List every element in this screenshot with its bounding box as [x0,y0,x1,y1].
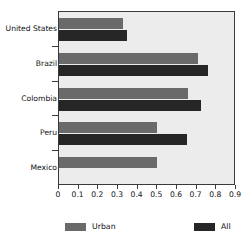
y-axis-tick [52,81,58,82]
x-axis-tick [156,185,157,189]
y-axis-label-peru: Peru [1,128,57,137]
legend-label-all: All [221,222,231,232]
legend-entry-urban: Urban [65,221,116,233]
x-axis-tick [58,185,59,189]
x-axis: 00.10.20.30.40.50.60.70.80.9 [58,185,235,207]
bar-chart: United StatesBrazilColombiaPeruMexico 00… [0,0,246,238]
bar-brazil-all [59,65,208,76]
y-axis-tick [52,115,58,116]
x-axis-tick [78,185,79,189]
bar-mexico-urban [59,157,157,168]
x-axis-tick [97,185,98,189]
y-axis-labels: United StatesBrazilColombiaPeruMexico [0,11,57,185]
x-axis-tick-label: 0.9 [223,190,246,200]
y-axis-label-mexico: Mexico [1,163,57,172]
y-axis-label-united-states: United States [1,24,57,33]
x-axis-tick [137,185,138,189]
legend-entry-all: All [194,221,231,233]
bar-peru-urban [59,122,157,133]
legend-swatch-all [194,223,215,231]
bar-peru-all [59,134,187,145]
chart-legend: Urban All [0,221,246,235]
y-axis-label-brazil: Brazil [1,59,57,68]
bar-colombia-urban [59,88,188,99]
y-axis-tick [52,46,58,47]
legend-swatch-urban [65,223,86,231]
bar-united-states-all [59,30,127,41]
x-axis-tick [117,185,118,189]
x-axis-tick [235,185,236,189]
y-axis-label-colombia: Colombia [1,94,57,103]
bar-brazil-urban [59,53,198,64]
x-axis-tick [196,185,197,189]
bar-colombia-all [59,100,201,111]
y-axis-tick [52,150,58,151]
plot-area [58,11,235,185]
x-axis-tick [176,185,177,189]
legend-label-urban: Urban [92,222,116,232]
x-axis-tick [215,185,216,189]
bar-united-states-urban [59,18,123,29]
